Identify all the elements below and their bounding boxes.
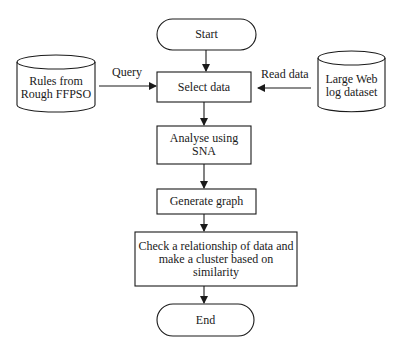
generate-graph-node: Generate graph: [157, 189, 256, 214]
analyse-node: Analyse using SNA: [157, 126, 251, 164]
check-label-line2: make a cluster based on: [159, 253, 274, 266]
weblog-database-node: Large Web log dataset: [318, 66, 385, 106]
weblog-label-line2: log dataset: [326, 86, 378, 99]
analyse-label-line2: SNA: [192, 145, 216, 158]
select-data-label: Select data: [178, 81, 230, 94]
start-label: Start: [195, 28, 218, 41]
generate-graph-label: Generate graph: [170, 195, 244, 208]
rules-label-line2: Rough FFPSO: [21, 88, 91, 101]
read-data-edge-label: Read data: [261, 68, 309, 81]
check-relationship-node: Check a relationship of data and make a …: [135, 232, 297, 286]
check-label-line1: Check a relationship of data and: [139, 240, 294, 253]
check-label-line3: similarity: [193, 266, 239, 279]
select-data-node: Select data: [157, 72, 251, 102]
end-label: End: [196, 314, 215, 327]
end-node: End: [157, 304, 254, 336]
flowchart-canvas: [0, 0, 402, 351]
start-node: Start: [157, 19, 256, 50]
query-edge-label: Query: [112, 66, 142, 79]
rules-database-node: Rules from Rough FFPSO: [17, 69, 95, 107]
